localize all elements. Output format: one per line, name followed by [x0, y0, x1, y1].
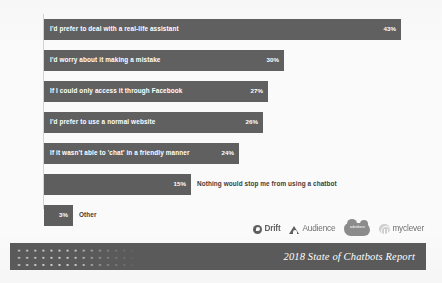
chart-bar-row: 3% Other — [44, 205, 97, 226]
chart-bar-row: I'd prefer to deal with a real-life assi… — [44, 19, 401, 40]
chart-bar[interactable]: 3% — [44, 205, 73, 226]
chart-bar-label: Nothing would stop me from using a chatb… — [197, 181, 337, 187]
chart-bar-label: If it wasn't able to 'chat' in a friendl… — [50, 150, 190, 156]
salesforce-logo: salesforce — [344, 223, 370, 236]
audience-logo-text: Audience — [302, 225, 335, 233]
chart-bar-value: 43% — [384, 26, 396, 32]
chart-bar[interactable]: I'd prefer to deal with a real-life assi… — [44, 19, 401, 40]
drift-logo-text: Drift — [264, 225, 280, 233]
chart-bar-value: 27% — [251, 88, 263, 94]
chart-bar-value: 26% — [246, 119, 258, 125]
report-footer-band: 2018 State of Chatbots Report — [10, 243, 426, 270]
drift-icon — [253, 225, 262, 234]
chart-bar-label: If I could only access it through Facebo… — [50, 88, 183, 94]
drift-logo: Drift — [253, 225, 280, 234]
audience-icon — [289, 225, 300, 234]
chart-bar-label: I'd worry about it making a mistake — [50, 57, 160, 63]
chart-bar[interactable]: If it wasn't able to 'chat' in a friendl… — [44, 143, 239, 164]
chart-bar-value: 15% — [174, 181, 186, 187]
footer-dot-pattern — [15, 247, 140, 266]
chart-bar-value: 24% — [222, 150, 234, 156]
chart-bar-row: I'd worry about it making a mistake 30% — [44, 50, 284, 71]
chart-bar-row: 15% Nothing would stop me from using a c… — [44, 174, 337, 195]
chart-bar[interactable]: 15% — [44, 174, 191, 195]
audience-logo: Audience — [289, 225, 335, 234]
chart-bar-label: I'd prefer to deal with a real-life assi… — [50, 26, 179, 32]
chart-bar-row: If it wasn't able to 'chat' in a friendl… — [44, 143, 239, 164]
salesforce-logo-text: salesforce — [344, 226, 370, 230]
myclever-brain-icon — [379, 224, 390, 234]
partner-logo-strip: Drift Audience salesforce myclever — [228, 220, 424, 238]
salesforce-cloud-icon: salesforce — [344, 223, 370, 236]
page-canvas: I'd prefer to deal with a real-life assi… — [0, 0, 442, 283]
myclever-logo-text: myclever — [392, 225, 424, 233]
chart-bar-value: 30% — [267, 57, 279, 63]
report-title: 2018 State of Chatbots Report — [283, 251, 415, 262]
chart-bar-row: If I could only access it through Facebo… — [44, 81, 268, 102]
chart-bar-label: I'd prefer to use a normal website — [50, 119, 155, 125]
barriers-bar-chart: I'd prefer to deal with a real-life assi… — [43, 14, 423, 214]
chart-bar-label: Other — [79, 212, 97, 218]
chart-bar-value: 3% — [59, 212, 68, 218]
chart-bar[interactable]: I'd worry about it making a mistake 30% — [44, 50, 284, 71]
chart-bar-row: I'd prefer to use a normal website 26% — [44, 112, 263, 133]
chart-bar[interactable]: I'd prefer to use a normal website 26% — [44, 112, 263, 133]
myclever-logo: myclever — [379, 224, 424, 234]
chart-bar[interactable]: If I could only access it through Facebo… — [44, 81, 268, 102]
